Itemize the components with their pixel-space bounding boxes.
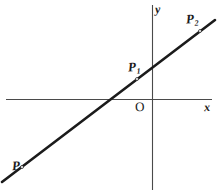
plotted-line [2, 20, 215, 182]
point-label-p1-subscript: 1 [136, 66, 141, 75]
line-through-two-points-figure: y x O P P1 P2 [0, 0, 218, 192]
point-marker-p1 [136, 78, 139, 81]
point-label-p0-base: P [11, 158, 20, 174]
x-axis-label: x [204, 101, 211, 113]
y-axis-label: y [155, 3, 161, 15]
point-label-p0: P [12, 159, 21, 173]
point-marker-p0 [21, 166, 24, 169]
point-label-p2: P2 [186, 12, 199, 26]
point-label-p2-subscript: 2 [194, 18, 199, 27]
origin-label: O [135, 100, 145, 113]
point-label-p1: P1 [128, 60, 141, 74]
point-marker-p2 [199, 30, 202, 33]
figure-canvas [0, 0, 218, 192]
